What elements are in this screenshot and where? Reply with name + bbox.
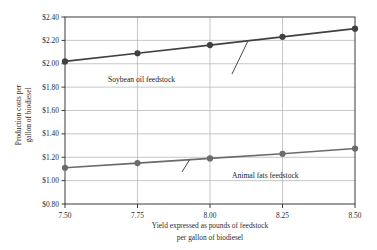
data-point-marker: [279, 151, 285, 157]
x-tick-label: 7.75: [131, 211, 144, 220]
chart-container: $2.40$2.20$2.00$1.80$1.60$1.40$1.20$1.00…: [0, 0, 377, 250]
data-point-marker: [62, 165, 68, 171]
x-axis-title-line1: Yield expressed as pounds of feedstock: [152, 221, 269, 230]
y-axis-title: Production costs per gallon of biodiesel: [14, 84, 33, 145]
y-axis-title-line2: gallon of biodiesel: [24, 87, 33, 142]
x-axis-title-line2: per gallon of biodiesel: [177, 233, 243, 242]
y-tick-label: $2.00: [42, 59, 59, 68]
data-point-marker: [279, 34, 285, 40]
line-chart: $2.40$2.20$2.00$1.80$1.60$1.40$1.20$1.00…: [0, 0, 377, 250]
x-tick-label: 8.25: [276, 211, 289, 220]
x-tick-label: 8.00: [204, 211, 217, 220]
data-point-marker: [62, 58, 68, 64]
data-point-marker: [134, 50, 140, 56]
data-point-marker: [134, 160, 140, 166]
y-tick-label: $1.40: [42, 129, 59, 138]
data-point-marker: [207, 42, 213, 48]
y-tick-label: $2.20: [42, 36, 59, 45]
annotation-label: Animal fats feedstock: [232, 171, 299, 180]
y-tick-label: $1.20: [42, 153, 59, 162]
data-point-marker: [352, 145, 358, 151]
annotation-label: Soybean oil feedstock: [108, 75, 175, 84]
x-tick-label: 7.50: [59, 211, 72, 220]
y-tick-label: $1.60: [42, 106, 59, 115]
y-axis-title-line1: Production costs per: [14, 84, 23, 145]
y-tick-label: $1.80: [42, 83, 59, 92]
y-tick-label: $2.40: [42, 13, 59, 22]
y-tick-label: $0.80: [42, 200, 59, 209]
y-tick-label: $1.00: [42, 176, 59, 185]
data-point-marker: [207, 155, 213, 161]
data-point-marker: [352, 26, 358, 32]
x-tick-label: 8.50: [349, 211, 362, 220]
